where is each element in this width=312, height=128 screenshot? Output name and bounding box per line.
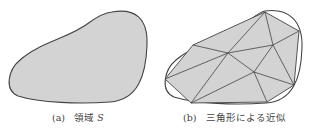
region-s-shape [9, 11, 147, 103]
caption-b-label: (b) [183, 112, 197, 123]
triangulation-polygon [165, 12, 299, 103]
caption-b-text: 三角形による近似 [206, 112, 286, 123]
caption-a-text: 領域 [74, 112, 94, 123]
caption-a-variable: S [97, 112, 104, 123]
caption-b: (b) 三角形による近似 [183, 110, 286, 124]
caption-a: (a) 領域 S [52, 110, 104, 124]
figure-canvas [0, 0, 312, 128]
caption-a-label: (a) [52, 112, 65, 123]
